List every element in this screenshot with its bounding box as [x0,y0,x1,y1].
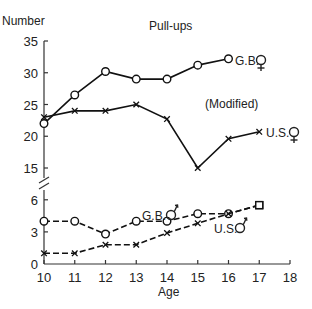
y-tick-label: 35 [24,34,38,49]
data-point-marker [102,68,110,76]
series-us [41,102,262,171]
y-tick-label: 15 [24,161,38,176]
x-tick-label: 11 [68,270,82,285]
data-point-marker [102,230,110,238]
chart-subtitle: (Modified) [205,97,258,111]
data-point-marker [40,120,48,128]
data-point-marker [194,210,202,218]
x-tick-label: 10 [37,270,51,285]
x-tick-label: 18 [283,270,297,285]
data-point-marker [256,202,263,209]
chart-title: Pull-ups [149,19,192,33]
gb-boys-label: G.B. [142,209,166,223]
data-point-marker [225,55,233,63]
data-point-marker [71,91,79,99]
x-tick-label: 16 [221,270,235,285]
y-tick-label: 6 [31,193,38,208]
y-tick-label: 30 [24,66,38,81]
pullups-chart: 1520253035036 101112131415161718 Number … [0,0,312,309]
x-tick-label: 17 [252,270,266,285]
x-tick-label: 13 [129,270,143,285]
female-symbol-icon [290,128,299,144]
data-point-marker [132,75,140,83]
x-axis-label: Age [158,285,180,299]
series-gb [40,55,232,127]
data-point-marker [40,217,48,225]
us-girls-label: U.S. [266,126,289,140]
axis-break-mark [39,183,49,189]
x-tick-label: 14 [160,270,174,285]
x-tick-label: 15 [191,270,205,285]
gb-girls-label: G.B. [235,54,259,68]
y-tick-label: 25 [24,98,38,113]
series-line [44,105,259,169]
data-point-marker [71,217,79,225]
data-point-marker [194,61,202,69]
female-symbol-icon [257,56,266,72]
data-point-marker [195,165,201,171]
series-line [44,59,229,124]
data-point-marker [163,75,171,83]
y-tick-label: 20 [24,129,38,144]
data-point-marker [164,116,170,122]
data-point-marker [132,217,140,225]
y-tick-label: 3 [31,225,38,240]
x-tick-label: 12 [98,270,112,285]
us-boys-label: U.S. [214,222,237,236]
y-axis-label: Number [2,14,45,28]
